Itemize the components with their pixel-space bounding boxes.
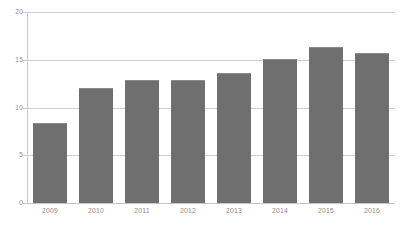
x-tick-label-2015: 2015 bbox=[303, 208, 349, 215]
x-tick-label-2016: 2016 bbox=[349, 208, 395, 215]
bars-layer bbox=[27, 12, 395, 203]
bar-2011[interactable] bbox=[125, 80, 159, 203]
x-tick-label-2011: 2011 bbox=[119, 208, 165, 215]
y-tick-label-20: 20 bbox=[15, 9, 23, 16]
bar-2010[interactable] bbox=[79, 88, 113, 203]
x-tick-label-2014: 2014 bbox=[257, 208, 303, 215]
bar-2013[interactable] bbox=[217, 73, 251, 203]
bar-2009[interactable] bbox=[33, 123, 67, 203]
bar-2012[interactable] bbox=[171, 80, 205, 203]
x-axis-labels: 20092010201120122013201420152016 bbox=[27, 208, 395, 224]
y-tick-mark-0 bbox=[23, 203, 27, 204]
bar-chart: 05101520 2009201020112012201320142015201… bbox=[0, 0, 405, 236]
y-tick-label-0: 0 bbox=[19, 200, 23, 207]
y-tick-label-10: 10 bbox=[15, 105, 23, 112]
bar-2014[interactable] bbox=[263, 59, 297, 203]
x-tick-label-2009: 2009 bbox=[27, 208, 73, 215]
bar-2015[interactable] bbox=[309, 47, 343, 203]
x-tick-label-2010: 2010 bbox=[73, 208, 119, 215]
bar-2016[interactable] bbox=[355, 53, 389, 203]
gridline-0 bbox=[27, 203, 395, 204]
x-tick-label-2013: 2013 bbox=[211, 208, 257, 215]
x-tick-label-2012: 2012 bbox=[165, 208, 211, 215]
y-tick-label-5: 5 bbox=[19, 152, 23, 159]
y-tick-label-15: 15 bbox=[15, 57, 23, 64]
